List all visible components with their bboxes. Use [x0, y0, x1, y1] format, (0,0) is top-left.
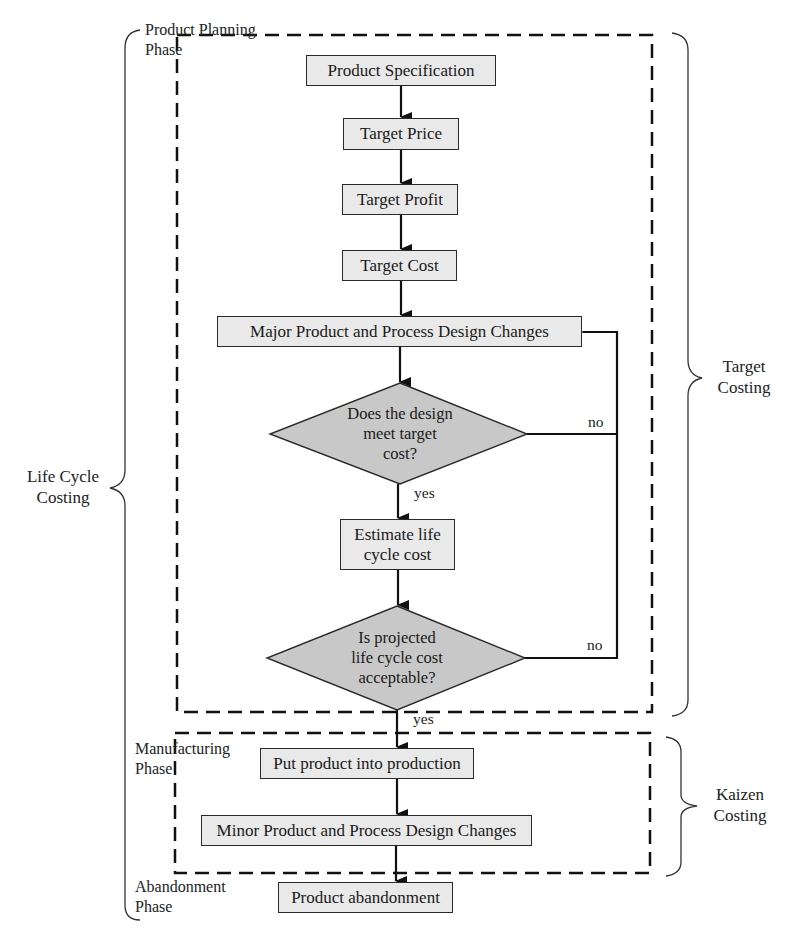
bracket-label-kaizen: Kaizen Costing [700, 784, 780, 826]
node-target-cost: Target Cost [342, 250, 457, 281]
node-estimate-line1: Estimate life [354, 525, 440, 545]
phase-label-manufacturing-line1: Manufacturing [135, 739, 230, 759]
phase-label-abandonment: Abandonment Phase [135, 877, 226, 917]
bracket-label-kaizen-line1: Kaizen [700, 784, 780, 805]
edge-label-d2-no: no [587, 636, 603, 654]
phase-label-abandonment-line1: Abandonment [135, 877, 226, 897]
bracket-label-target: Target Costing [704, 356, 784, 398]
phase-label-manufacturing: Manufacturing Phase [135, 739, 230, 779]
bracket-label-life-cycle-line2: Costing [18, 487, 108, 508]
node-product-abandonment: Product abandonment [278, 882, 453, 913]
decision2-line2: life cycle cost [351, 648, 443, 668]
bracket-label-target-line2: Costing [704, 377, 784, 398]
decision1-line3: cost? [383, 444, 417, 464]
node-major-design-changes: Major Product and Process Design Changes [217, 316, 582, 347]
bracket-label-life-cycle-line1: Life Cycle [18, 466, 108, 487]
bracket-label-life-cycle: Life Cycle Costing [18, 466, 108, 508]
node-minor-design-changes: Minor Product and Process Design Changes [201, 815, 532, 846]
decision2-line1: Is projected [358, 628, 435, 648]
node-target-price: Target Price [343, 118, 459, 150]
decision1-line2: meet target [363, 424, 436, 444]
node-put-into-production: Put product into production [260, 748, 474, 779]
node-estimate-life-cycle-cost: Estimate life cycle cost [340, 519, 455, 570]
bracket-label-kaizen-line2: Costing [700, 805, 780, 826]
decision1-text: Does the design meet target cost? [320, 404, 480, 464]
decision2-line3: acceptable? [359, 668, 436, 688]
decision1-line1: Does the design [347, 404, 452, 424]
phase-label-manufacturing-line2: Phase [135, 759, 230, 779]
node-target-profit: Target Profit [342, 184, 458, 215]
kaizen-costing-brace [666, 737, 697, 876]
phase-label-abandonment-line2: Phase [135, 897, 226, 917]
life-cycle-brace [110, 30, 140, 920]
phase-label-planning-line1: Product Planning [145, 20, 256, 40]
node-product-specification: Product Specification [306, 55, 496, 86]
phase-label-planning: Product Planning Phase [145, 20, 256, 60]
edge-label-d1-yes: yes [414, 484, 435, 502]
decision2-text: Is projected life cycle cost acceptable? [317, 628, 477, 688]
phase-label-planning-line2: Phase [145, 40, 256, 60]
edge-label-d1-no: no [588, 413, 604, 431]
target-costing-brace [672, 33, 702, 716]
bracket-label-target-line1: Target [704, 356, 784, 377]
edge-label-d2-yes: yes [413, 710, 434, 728]
node-estimate-line2: cycle cost [364, 545, 432, 565]
